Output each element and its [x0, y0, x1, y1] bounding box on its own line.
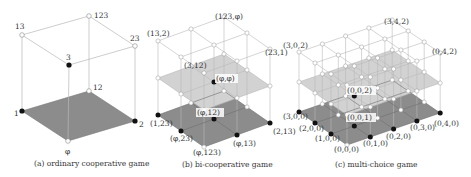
node-white: [390, 48, 394, 52]
node-white: [268, 84, 272, 88]
label-0-2-0: (0,2,0): [386, 132, 411, 141]
node-white: [222, 89, 226, 93]
node-white: [422, 100, 426, 104]
label-0-0-2: (0,0,2): [347, 86, 372, 95]
label-123: 123: [94, 11, 109, 20]
node-white: [313, 91, 317, 95]
node-white: [202, 71, 206, 75]
label-phi: φ: [65, 147, 70, 156]
node-2: [132, 118, 137, 123]
node-white: [235, 59, 239, 63]
label-1: 1: [14, 109, 19, 118]
node-white: [376, 116, 380, 120]
node-black: [235, 133, 240, 138]
label-0-4-0: (0,4,0): [434, 119, 459, 128]
node-white: [376, 86, 380, 90]
panel-a-floor: [22, 91, 135, 141]
node-white: [415, 59, 419, 63]
node-white: [360, 75, 364, 79]
lattice-figure: 13 123 23 3 12 1 2 φ (a) ordinary cooper…: [0, 0, 471, 177]
caption-a: (a) ordinary cooperative game: [34, 159, 150, 168]
node-white: [245, 31, 249, 35]
node-13: [20, 33, 25, 38]
node-white: [438, 81, 442, 85]
node-white: [352, 64, 356, 68]
label-phi-13: (φ,13): [233, 139, 256, 148]
node-white: [376, 56, 380, 60]
label-13: 13: [15, 22, 25, 31]
node-phi: [66, 139, 71, 144]
node-white: [189, 101, 193, 105]
node-black: [212, 117, 217, 122]
node-white: [399, 108, 403, 112]
label-3-4-2: (3,4,2): [384, 17, 409, 26]
node-white: [392, 67, 396, 71]
node-12: [87, 89, 92, 94]
node-white: [320, 102, 324, 106]
node-white: [367, 26, 371, 30]
node-white: [399, 78, 403, 82]
node-123: [87, 14, 92, 19]
node-black: [352, 124, 357, 129]
node-white: [415, 89, 419, 93]
label-3-0-2: (3,0,2): [283, 41, 308, 50]
caption-c: (c) multi-choice game: [335, 160, 418, 169]
node-white: [406, 29, 410, 33]
label-2: 2: [139, 120, 144, 129]
node-white: [297, 50, 301, 54]
node-white: [245, 68, 249, 72]
label-3-0-0: (3,0,0): [283, 112, 308, 121]
node-white: [336, 113, 340, 117]
node-white: [383, 97, 387, 101]
label-3-12: (3,12): [184, 61, 207, 70]
node-white: [329, 102, 333, 106]
node-white: [245, 105, 249, 109]
node-white: [336, 83, 340, 87]
node-white: [422, 40, 426, 44]
label-0-0-1: (0,0,1): [347, 113, 372, 122]
panel-a-ordinary-cooperative-game: 13 123 23 3 12 1 2 φ (a) ordinary cooper…: [14, 11, 150, 168]
label-1-0-0: (1,0,0): [315, 134, 340, 143]
node-white: [179, 55, 183, 59]
node-white: [313, 61, 317, 65]
label-0-3-0: (0,3,0): [410, 123, 435, 132]
label-13-2: (13,2): [147, 29, 170, 38]
label-0-1-0: (0,1,0): [363, 139, 388, 148]
node-white: [399, 48, 403, 52]
node-white: [383, 37, 387, 41]
label-23: 23: [130, 34, 140, 43]
node-white: [406, 59, 410, 63]
node-black: [438, 111, 443, 116]
node-white: [344, 34, 348, 38]
node-black: [268, 121, 273, 126]
label-phi-phi: (φ,φ): [216, 74, 235, 83]
label-2-13: (2,13): [273, 127, 296, 136]
panel-c-labels: (3,4,2) (3,0,2) (0,4,2) (0,0,2) (0,0,1) …: [283, 17, 459, 169]
label-3: 3: [66, 53, 71, 62]
node-black: [156, 113, 161, 118]
node-white: [392, 97, 396, 101]
panel-b-bi-cooperative-game: [156, 15, 273, 149]
node-white: [212, 43, 216, 47]
node-white: [297, 80, 301, 84]
node-white: [383, 67, 387, 71]
label-2-0-0: (2,0,0): [299, 124, 324, 133]
label-phi-23: (φ,23): [170, 134, 193, 143]
node-white: [367, 56, 371, 60]
node-white: [360, 105, 364, 109]
node-white: [390, 78, 394, 82]
label-0-4-2: (0,4,2): [432, 47, 457, 56]
node-white: [156, 39, 160, 43]
node-3: [66, 62, 71, 67]
label-phi-123: (φ,123): [193, 148, 221, 157]
node-white: [368, 75, 372, 79]
label-1-23: (1,23): [150, 119, 173, 128]
label-0-0-0: (0,0,0): [334, 145, 359, 154]
node-white: [360, 45, 364, 49]
node-black: [179, 129, 184, 134]
node-white: [368, 105, 372, 109]
caption-b: (b) bi-cooperative game: [182, 160, 273, 169]
node-white: [336, 53, 340, 57]
node-white: [179, 92, 183, 96]
node-white: [320, 42, 324, 46]
